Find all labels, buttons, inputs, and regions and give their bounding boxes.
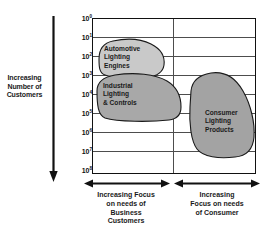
plot-area: Automotive Lighting Engines Industrial L… <box>92 18 256 174</box>
y-tick-0: 100 <box>62 15 92 22</box>
consumer-focus-arrow-icon <box>174 178 260 189</box>
y-tick-6: 106 <box>62 129 92 136</box>
automotive-label-line-2: Lighting <box>104 53 140 61</box>
consumer-caption-line-3: of Consumer <box>166 209 268 218</box>
y-tick-8: 108 <box>62 167 92 174</box>
y-axis-caption-line-2: Number of <box>2 83 47 92</box>
y-tick-5: 105 <box>62 110 92 117</box>
consumer-focus-caption: Increasing Focus on needs of Consumer <box>166 191 268 217</box>
industrial-label-line-1: Industrial <box>103 82 137 90</box>
y-axis-caption-line-1: Increasing <box>2 74 47 83</box>
y-tick-3: 103 <box>62 72 92 79</box>
business-caption-line-4: Customers <box>62 217 190 226</box>
y-axis-caption-line-3: Customers <box>2 91 47 100</box>
industrial-label-line-2: Lighting <box>103 90 137 98</box>
industrial-label-line-3: & Controls <box>103 99 137 107</box>
consumer-region-label: Consumer Lighting Products <box>205 109 238 134</box>
chart-figure: Increasing Number of Customers 100 101 1… <box>0 0 269 240</box>
automotive-label-line-1: Automotive <box>104 45 140 53</box>
y-tick-2: 102 <box>62 53 92 60</box>
consumer-label-line-1: Consumer <box>205 109 238 117</box>
y-axis-caption: Increasing Number of Customers <box>2 74 47 100</box>
increasing-customers-arrow-icon <box>48 16 59 182</box>
consumer-label-line-3: Products <box>205 126 238 134</box>
industrial-region-label: Industrial Lighting & Controls <box>103 82 137 107</box>
y-tick-1: 101 <box>62 34 92 41</box>
consumer-caption-line-2: Focus on needs <box>166 200 268 209</box>
y-tick-4: 104 <box>62 91 92 98</box>
business-focus-arrow-icon <box>84 178 170 189</box>
automotive-label-line-3: Engines <box>104 62 140 70</box>
y-axis-tick-labels: 100 101 102 103 104 105 106 107 108 <box>62 0 92 200</box>
consumer-caption-line-1: Increasing <box>166 191 268 200</box>
consumer-label-line-2: Lighting <box>205 117 238 125</box>
automotive-region-label: Automotive Lighting Engines <box>104 45 140 70</box>
y-tick-7: 107 <box>62 148 92 155</box>
